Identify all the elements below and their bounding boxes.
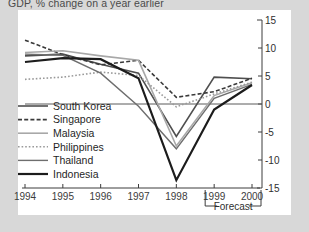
legend-label-malaysia: Malaysia <box>53 127 95 139</box>
y-tick-label--15: -15 <box>265 183 280 194</box>
x-tick-label-1995: 1995 <box>52 191 75 202</box>
legend-label-south-korea: South Korea <box>53 100 112 112</box>
x-tick-label-1998: 1998 <box>165 191 188 202</box>
chart-canvas: -15-10-505101519941995199619971998199920… <box>0 0 309 232</box>
legend-label-thailand: Thailand <box>53 154 93 166</box>
chart-figure: GDP, % change on a year earlier -15-10-5… <box>0 0 309 232</box>
forecast-label: Forecast <box>214 201 253 212</box>
y-tick-label-10: 10 <box>265 43 277 54</box>
series-line-singapore <box>25 40 252 97</box>
x-tick-label-1994: 1994 <box>14 191 37 202</box>
y-tick-label--10: -10 <box>265 155 280 166</box>
y-tick-label-0: 0 <box>265 99 271 110</box>
y-tick-label--5: -5 <box>265 127 274 138</box>
x-tick-label-1996: 1996 <box>90 191 113 202</box>
x-tick-label-1997: 1997 <box>127 191 150 202</box>
legend-label-indonesia: Indonesia <box>53 168 99 180</box>
y-tick-label-15: 15 <box>265 15 277 26</box>
legend-label-singapore: Singapore <box>53 113 101 125</box>
legend-label-philippines: Philippines <box>53 141 104 153</box>
y-tick-label-5: 5 <box>265 71 271 82</box>
